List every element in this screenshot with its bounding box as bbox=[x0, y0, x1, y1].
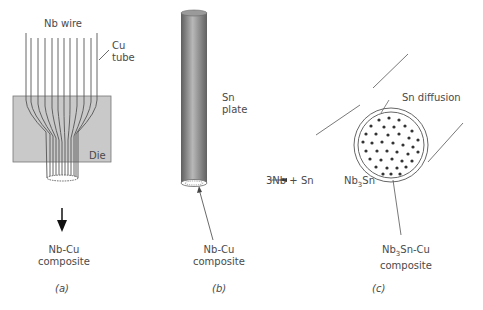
sn-plated-rod bbox=[181, 10, 207, 187]
cu-tube-label: Cu tube bbox=[112, 40, 135, 64]
cu-tube-label-line2: tube bbox=[112, 52, 135, 64]
label-c-nb: Nb bbox=[382, 244, 396, 255]
caption-c: (c) bbox=[372, 283, 385, 295]
sn-plate-label: Sn plate bbox=[222, 92, 247, 116]
sn-plate-line2: plate bbox=[222, 104, 247, 116]
down-arrow-icon bbox=[57, 208, 67, 232]
cu-tube-label-line1: Cu bbox=[112, 40, 135, 52]
reaction-reactants: 3Nb + Sn bbox=[266, 175, 314, 186]
label-c-line2: composite bbox=[380, 260, 432, 272]
label-a-line2: composite bbox=[38, 256, 90, 268]
label-c-line1: Nb3Sn-Cu bbox=[380, 244, 432, 260]
sn-diffusion-label: Sn diffusion bbox=[402, 92, 461, 104]
cross-section bbox=[316, 54, 463, 182]
nb-cu-composite-label-a: Nb-Cu composite bbox=[38, 244, 90, 268]
composite-end-a bbox=[47, 175, 78, 181]
sn-plate-line1: Sn bbox=[222, 92, 247, 104]
die-label: Die bbox=[89, 150, 106, 162]
label-a-line1: Nb-Cu bbox=[38, 244, 90, 256]
reaction-label: 3Nb + Sn Nb3Sn bbox=[266, 175, 375, 191]
label-b-line2: composite bbox=[193, 256, 245, 268]
label-c-sncu: Sn-Cu bbox=[400, 244, 430, 255]
nb3sn-cu-composite-label: Nb3Sn-Cu composite bbox=[380, 244, 432, 272]
reaction-product: Nb bbox=[344, 175, 358, 186]
nb-wire-label: Nb wire bbox=[44, 18, 82, 30]
caption-a: (a) bbox=[55, 283, 69, 295]
reaction-product-tail: Sn bbox=[362, 175, 375, 186]
label-b-line1: Nb-Cu bbox=[193, 244, 245, 256]
caption-b: (b) bbox=[212, 283, 226, 295]
nb-cu-composite-label-b: Nb-Cu composite bbox=[193, 244, 245, 268]
